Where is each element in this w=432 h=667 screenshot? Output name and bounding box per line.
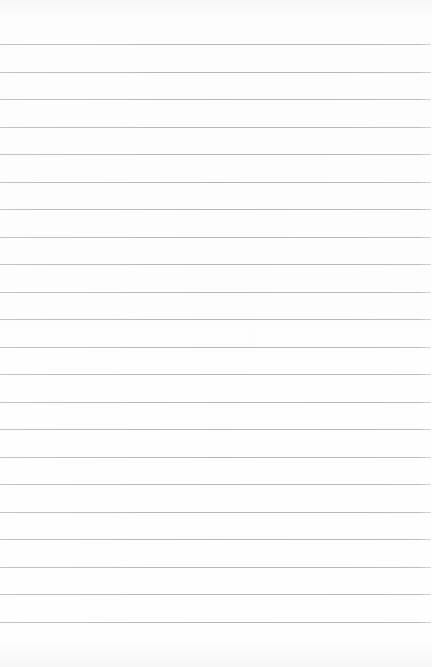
ruled-line: [0, 484, 431, 485]
ruled-line: [0, 154, 431, 155]
ruled-line: [0, 127, 431, 128]
ruled-line: [0, 594, 431, 595]
ruled-line: [0, 622, 431, 623]
ruled-line: [0, 72, 431, 73]
ruled-line: [0, 237, 431, 238]
ruled-line: [0, 182, 431, 183]
ruled-line: [0, 44, 431, 45]
ruled-line: [0, 539, 431, 540]
ruled-line: [0, 264, 431, 265]
ruled-line: [0, 402, 431, 403]
ruled-line: [0, 512, 431, 513]
ruled-line: [0, 319, 431, 320]
lined-paper: [0, 0, 432, 667]
ruled-line: [0, 292, 431, 293]
ruled-line: [0, 567, 431, 568]
ruled-line: [0, 374, 431, 375]
ruled-line: [0, 347, 431, 348]
ruled-line: [0, 99, 431, 100]
ruled-line: [0, 457, 431, 458]
ruled-line: [0, 429, 431, 430]
ruled-line: [0, 209, 431, 210]
